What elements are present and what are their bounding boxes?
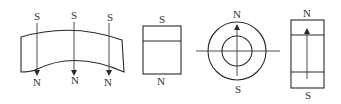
- magnet-diagram: S S S N N N S N N S N S: [0, 0, 341, 104]
- pole-label-n-1: N: [33, 76, 41, 88]
- arc-segment-magnet: S S S N N N: [21, 9, 124, 88]
- pole-label-n-2: N: [71, 74, 79, 86]
- pole-label-s-2: S: [71, 9, 77, 21]
- ring-pole-s: S: [235, 83, 241, 95]
- pole-label-n-3: N: [104, 76, 112, 88]
- block-pole-s: S: [159, 13, 165, 25]
- pole-label-s-1: S: [34, 10, 40, 22]
- side-pole-s: S: [305, 89, 311, 101]
- ring-side-magnet: N S: [291, 7, 324, 101]
- block-pole-n: N: [157, 75, 165, 87]
- pole-label-s-3: S: [107, 11, 113, 23]
- block-outline: [143, 26, 181, 74]
- side-outline: [291, 20, 324, 88]
- ring-magnet: N S: [196, 8, 280, 95]
- ring-pole-n: N: [233, 8, 241, 20]
- block-magnet: S N: [143, 13, 181, 87]
- side-pole-n: N: [303, 7, 311, 19]
